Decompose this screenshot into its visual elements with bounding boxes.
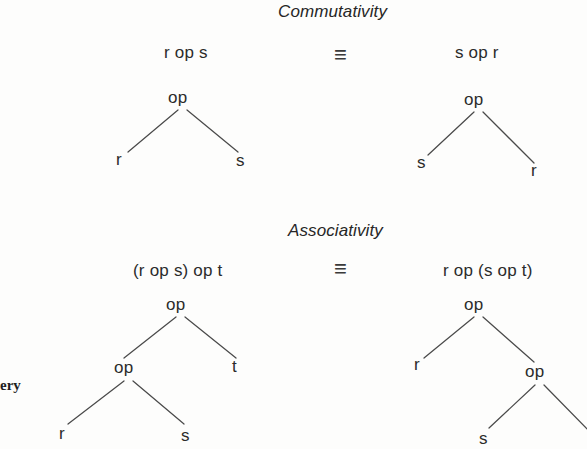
edge-comm-right-to-s: [428, 112, 474, 155]
leaf-comm-left-r: r: [116, 151, 122, 168]
leaf-assoc-left-r: r: [59, 425, 65, 442]
edge-assoc-right-inner-to-s: [489, 385, 535, 428]
edge-assoc-right-root-to-r: [424, 317, 474, 358]
section-title-associativity: Associativity: [288, 222, 383, 239]
node-assoc-right-root: op: [464, 296, 483, 313]
node-comm-left-root: op: [168, 89, 187, 106]
node-assoc-right-inner: op: [525, 363, 544, 380]
edge-assoc-left-inner-to-r: [68, 381, 124, 424]
edge-comm-right-to-r: [483, 112, 534, 163]
page-margin-text-fragment: ery: [0, 378, 21, 393]
node-assoc-left-root: op: [166, 296, 185, 313]
figure-canvas: Commutativity r op s ≡ s op r op r s op …: [0, 0, 587, 449]
leaf-comm-right-r: r: [531, 162, 537, 179]
equivalence-symbol-associativity: ≡: [334, 258, 347, 280]
leaf-comm-left-s: s: [236, 152, 245, 169]
leaf-assoc-left-t: t: [232, 358, 237, 375]
expression-commutativity-right: s op r: [455, 44, 499, 61]
edge-assoc-left-inner-to-s: [133, 381, 184, 424]
edge-assoc-right-root-to-inner: [483, 317, 534, 362]
leaf-assoc-right-s: s: [479, 430, 488, 447]
leaf-assoc-left-s: s: [181, 427, 190, 444]
node-comm-right-root: op: [464, 91, 483, 108]
leaf-assoc-right-r: r: [414, 356, 420, 373]
leaf-comm-right-s: s: [417, 154, 426, 171]
edge-comm-left-to-r: [128, 110, 178, 152]
edge-comm-left-to-s: [187, 110, 238, 152]
equivalence-symbol-commutativity: ≡: [334, 44, 347, 66]
node-assoc-left-inner: op: [114, 359, 133, 376]
expression-commutativity-left: r op s: [164, 44, 208, 61]
edge-assoc-right-inner-to-t: [544, 385, 587, 430]
section-title-commutativity: Commutativity: [278, 3, 387, 20]
expression-associativity-left: (r op s) op t: [133, 262, 223, 279]
edge-assoc-left-root-to-t: [185, 317, 236, 358]
expression-associativity-right: r op (s op t): [443, 262, 533, 279]
edge-assoc-left-root-to-inner: [124, 317, 176, 358]
